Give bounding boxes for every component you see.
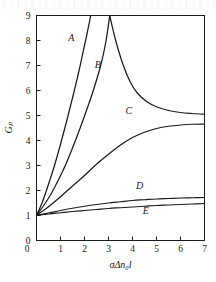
curve-label-b: B	[95, 59, 101, 70]
curve-label-e: E	[142, 205, 149, 216]
y-tick-label: 8	[26, 36, 31, 46]
x-axis-title: σΔn₀l	[109, 259, 131, 270]
x-tick-label: 1	[58, 244, 63, 254]
y-tick-label: 3	[26, 161, 31, 171]
x-tick-label: 5	[154, 244, 159, 254]
y-tick-label: 9	[26, 11, 31, 21]
x-tick-label: 0	[25, 244, 30, 254]
y-tick-label: 1	[26, 211, 31, 221]
chart-figure: 0123456789 01234567 ABCDE GₚσΔn₀l	[0, 0, 216, 282]
line-chart: 0123456789 01234567 ABCDE GₚσΔn₀l	[0, 0, 216, 282]
y-tick-label: 2	[26, 186, 31, 196]
y-axis-title: Gₚ	[3, 121, 14, 133]
curve-label-d: D	[135, 180, 144, 191]
x-tick-label: 7	[202, 244, 207, 254]
curve-label-c: C	[126, 105, 133, 116]
x-tick-label: 2	[82, 244, 87, 254]
y-tick-label: 6	[26, 86, 31, 96]
x-tick-label: 6	[178, 244, 183, 254]
y-tick-label: 4	[26, 136, 31, 146]
y-tick-label: 7	[26, 61, 31, 71]
y-tick-label: 5	[26, 111, 31, 121]
x-tick-label: 4	[130, 244, 135, 254]
curve-label-a: A	[67, 32, 75, 43]
x-tick-label: 3	[106, 244, 111, 254]
